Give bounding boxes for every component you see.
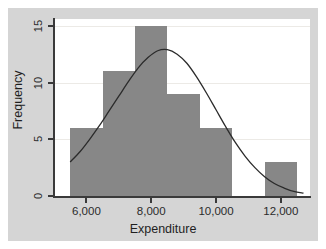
x-axis-label: Expenditure <box>8 222 318 236</box>
x-tick-6000 <box>85 198 87 203</box>
y-tick-0 <box>48 195 54 197</box>
y-axis-label-container: Frequency <box>10 8 26 208</box>
y-tick-label-container: 10 <box>30 76 46 90</box>
x-tick-label: 6,000 <box>72 205 101 217</box>
density-curve-layer <box>54 19 310 196</box>
y-tick-15 <box>48 25 54 27</box>
y-axis-line <box>53 18 55 197</box>
y-tick-10 <box>48 82 54 84</box>
x-tick-10000 <box>215 198 217 203</box>
normal-density-curve <box>70 49 303 193</box>
y-tick-label-container: 5 <box>30 132 46 146</box>
y-tick-label: 0 <box>32 193 44 199</box>
y-tick-label: 5 <box>32 136 44 142</box>
x-tick-label: 10,000 <box>198 205 233 217</box>
x-tick-label: 8,000 <box>137 205 166 217</box>
y-axis-label: Frequency <box>11 70 25 129</box>
y-tick-5 <box>48 138 54 140</box>
y-tick-label: 10 <box>32 76 44 88</box>
figure-panel: Frequency 051015 6,0008,00010,00012,000 … <box>8 8 318 241</box>
plot-area <box>54 19 310 196</box>
x-axis-line <box>53 196 311 198</box>
y-tick-label: 15 <box>32 20 44 32</box>
x-tick-label: 12,000 <box>263 205 298 217</box>
x-tick-8000 <box>150 198 152 203</box>
x-tick-12000 <box>280 198 282 203</box>
y-tick-label-container: 0 <box>30 189 46 203</box>
y-tick-label-container: 15 <box>30 19 46 33</box>
